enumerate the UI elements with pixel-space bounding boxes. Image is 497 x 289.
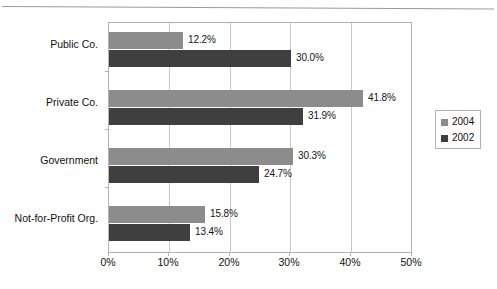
bar-value-2002-private-co: 31.9% xyxy=(308,111,336,121)
x-axis-label-50: 50% xyxy=(400,256,421,268)
bar-2004-public-co[interactable] xyxy=(109,32,183,49)
bar-value-2004-private-co: 41.8% xyxy=(368,93,396,103)
bar-value-2002-government: 24.7% xyxy=(264,169,292,179)
category-tick-2 xyxy=(105,129,109,130)
bar-value-2004-government: 30.3% xyxy=(298,151,326,161)
value-axis: 0% 10% 20% 30% 40% 50% xyxy=(108,256,412,276)
category-tick-1 xyxy=(105,71,109,72)
legend-swatch-2002-icon xyxy=(441,135,448,142)
bar-value-2002-public-co: 30.0% xyxy=(296,53,324,63)
x-axis-label-10: 10% xyxy=(157,256,178,268)
legend-label-2002: 2002 xyxy=(452,133,474,143)
category-label-government: Government xyxy=(40,155,98,166)
bar-2002-not-for-profit-org[interactable] xyxy=(109,224,190,241)
legend-item-2002[interactable]: 2002 xyxy=(441,133,474,143)
x-axis-label-20: 20% xyxy=(218,256,239,268)
legend-item-2004[interactable]: 2004 xyxy=(441,117,474,127)
bar-group-public-co: 12.2% 30.0% xyxy=(109,32,411,70)
bar-group-private-co: 41.8% 31.9% xyxy=(109,90,411,128)
bar-group-not-for-profit-org: 15.8% 13.4% xyxy=(109,206,411,244)
category-label-private-co: Private Co. xyxy=(46,97,98,108)
x-axis-label-30: 30% xyxy=(278,256,299,268)
bar-2002-private-co[interactable] xyxy=(109,108,303,125)
x-axis-label-40: 40% xyxy=(339,256,360,268)
legend-label-2004: 2004 xyxy=(452,117,474,127)
chart-legend: 2004 2002 xyxy=(435,110,481,149)
bar-2004-government[interactable] xyxy=(109,148,293,165)
bar-group-government: 30.3% 24.7% xyxy=(109,148,411,186)
category-tick-3 xyxy=(105,187,109,188)
bar-2002-public-co[interactable] xyxy=(109,50,291,67)
bar-2004-private-co[interactable] xyxy=(109,90,363,107)
legend-swatch-2004-icon xyxy=(441,119,448,126)
bar-chart: Public Co. Private Co. Government Not-fo… xyxy=(0,0,497,289)
plot-area: 12.2% 30.0% 41.8% 31.9% 30.3% 24.7% 15.8… xyxy=(108,22,412,253)
bar-2002-government[interactable] xyxy=(109,166,259,183)
x-axis-label-0: 0% xyxy=(100,256,115,268)
bar-value-2002-not-for-profit-org: 13.4% xyxy=(195,227,223,237)
bar-2004-not-for-profit-org[interactable] xyxy=(109,206,205,223)
category-label-public-co: Public Co. xyxy=(50,39,98,50)
category-axis: Public Co. Private Co. Government Not-fo… xyxy=(0,22,103,253)
bar-value-2004-public-co: 12.2% xyxy=(188,35,216,45)
category-label-not-for-profit-org: Not-for-Profit Org. xyxy=(15,213,98,224)
bar-value-2004-not-for-profit-org: 15.8% xyxy=(210,209,238,219)
